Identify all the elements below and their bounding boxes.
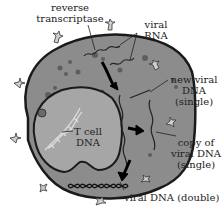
label-line: copy of	[170, 137, 222, 148]
label-reverse-transcriptase: reverse transcriptase	[30, 2, 110, 24]
label-line: transcriptase	[30, 13, 110, 24]
label-new-viral-dna: new viral DNA (single)	[166, 74, 222, 107]
label-line: RNA	[136, 30, 176, 41]
label-line: viral	[136, 19, 176, 30]
label-viral-rna: viral RNA	[136, 19, 176, 41]
label-line: DNA	[166, 85, 222, 96]
t-cell-diagram	[0, 0, 222, 214]
label-line: (single)	[166, 96, 222, 107]
label-line: T cell	[70, 126, 106, 137]
label-line: new viral	[166, 74, 222, 85]
label-line: DNA	[70, 137, 106, 148]
nucleolus	[38, 109, 46, 117]
label-t-cell-dna: T cell DNA	[70, 126, 106, 148]
label-line: reverse	[30, 2, 110, 13]
label-copy-viral-dna: copy of viral DNA (single)	[170, 137, 222, 170]
label-viral-dna-double: viral DNA (double)	[124, 192, 219, 203]
label-line: (single)	[170, 159, 222, 170]
label-line: viral DNA	[170, 148, 222, 159]
